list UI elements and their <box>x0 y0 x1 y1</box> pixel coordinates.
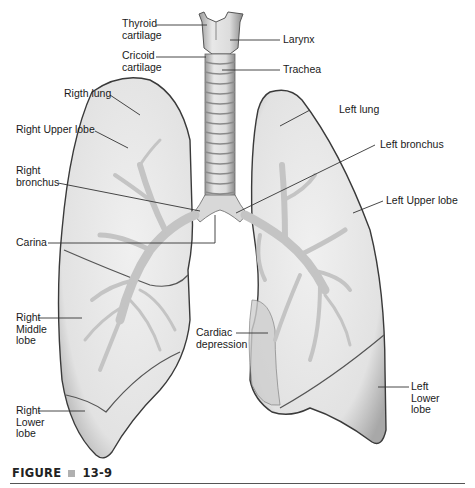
label-cricoid-cartilage: Cricoid cartilage <box>122 50 162 73</box>
label-thyroid-cartilage: Thyroid cartilage <box>122 18 162 41</box>
label-right-upper-lobe: Right Upper lobe <box>16 124 95 136</box>
label-left-lower-lobe: Left Lower lobe <box>411 381 440 416</box>
label-right-lower-lobe: Right Lower lobe <box>16 405 45 440</box>
label-left-lung: Left lung <box>339 104 379 116</box>
trachea-shape <box>193 54 247 222</box>
larynx-shape <box>199 12 243 54</box>
figure-caption: FIGURE13-9 <box>12 466 112 480</box>
label-right-bronchus: Right bronchus <box>16 165 59 188</box>
figure-caption-prefix: FIGURE <box>12 466 61 480</box>
label-carina: Carina <box>16 237 47 249</box>
label-trachea: Trachea <box>283 64 321 76</box>
left-lung-shape <box>245 90 386 443</box>
caption-square-icon <box>68 470 75 477</box>
caption-divider <box>10 483 465 484</box>
label-right-lung: Rigth lung <box>64 88 111 100</box>
label-left-bronchus: Left bronchus <box>380 139 444 151</box>
figure-caption-number: 13-9 <box>82 466 112 480</box>
label-right-middle-lobe: Right Middle lobe <box>16 312 47 347</box>
label-larynx: Larynx <box>283 34 315 46</box>
label-cardiac-depression: Cardiac depression <box>196 327 247 350</box>
label-left-upper-lobe: Left Upper lobe <box>386 195 458 207</box>
lungs-illustration <box>0 0 475 488</box>
lungs-diagram: Thyroid cartilage Cricoid cartilage Lary… <box>0 0 475 488</box>
